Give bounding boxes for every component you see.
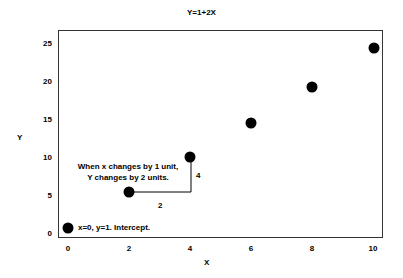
slope-annotation-line2: Y changes by 2 units. bbox=[72, 173, 184, 182]
rise-run-arrow bbox=[0, 0, 403, 278]
run-label: 2 bbox=[158, 201, 162, 210]
rise-label: 4 bbox=[196, 171, 200, 180]
data-point bbox=[124, 187, 135, 198]
data-point bbox=[369, 43, 380, 54]
data-point bbox=[246, 118, 257, 129]
data-point bbox=[307, 82, 318, 93]
data-point bbox=[185, 152, 196, 163]
data-point bbox=[63, 223, 74, 234]
intercept-annotation: x=0, y=1. Intercept. bbox=[78, 223, 150, 232]
slope-annotation-line1: When x changes by 1 unit, bbox=[72, 162, 184, 171]
